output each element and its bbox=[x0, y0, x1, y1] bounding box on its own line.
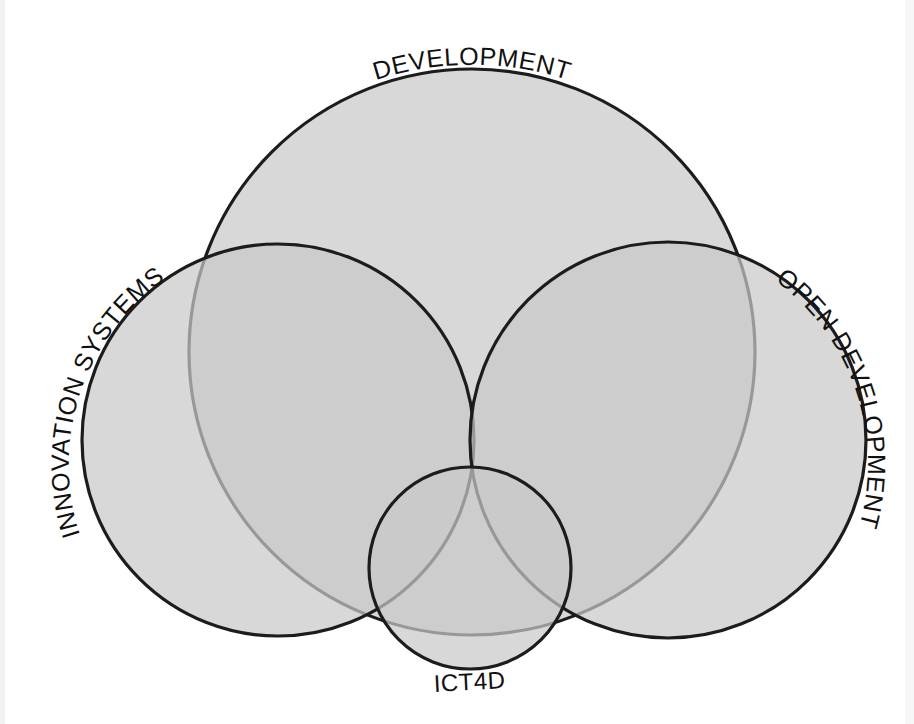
scan-edge-right bbox=[905, 0, 914, 724]
circle-ict4d[interactable] bbox=[369, 467, 571, 669]
label-ict4d: ICT4D bbox=[433, 666, 506, 697]
scan-edge-left bbox=[0, 0, 5, 724]
venn-diagram-canvas: DEVELOPMENT INNOVATION SYSTEMS OPEN DEVE… bbox=[0, 0, 914, 724]
venn-diagram-figure: DEVELOPMENT INNOVATION SYSTEMS OPEN DEVE… bbox=[0, 0, 914, 724]
